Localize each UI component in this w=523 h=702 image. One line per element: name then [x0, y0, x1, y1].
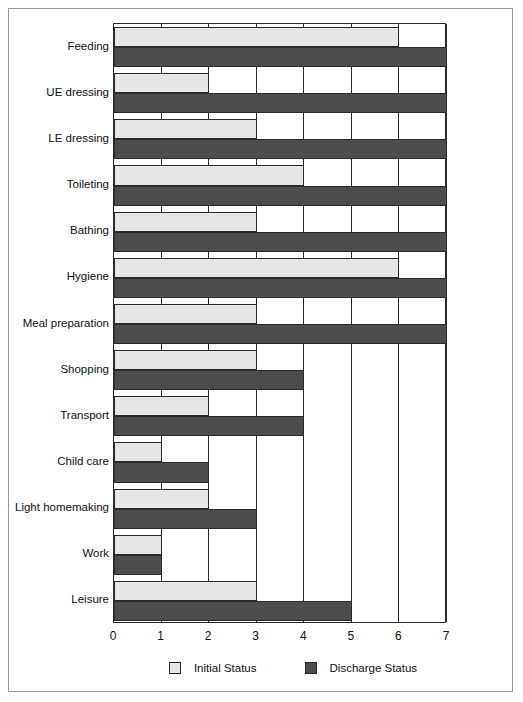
category-label: Hygiene [13, 270, 109, 283]
legend-label: Discharge Status [330, 662, 418, 674]
bar-group [114, 24, 445, 70]
legend-item-initial-status: Initial Status [169, 662, 257, 674]
bar-group [114, 578, 445, 624]
x-tick-label-6: 6 [385, 629, 411, 643]
category-label: Bathing [13, 224, 109, 237]
bar-group [114, 347, 445, 393]
bar-discharge-status [114, 47, 447, 67]
category-label: UE dressing [13, 86, 109, 99]
x-tick-label-0: 0 [100, 629, 126, 643]
legend-swatch-icon [305, 662, 317, 674]
bar-discharge-status [114, 555, 162, 575]
chart-legend: Initial StatusDischarge Status [113, 657, 473, 679]
x-tick-label-3: 3 [243, 629, 269, 643]
category-label: Toileting [13, 178, 109, 191]
x-tick-label-2: 2 [195, 629, 221, 643]
bar-discharge-status [114, 416, 304, 436]
bar-initial-status [114, 535, 162, 555]
bar-discharge-status [114, 324, 447, 344]
bar-group [114, 486, 445, 532]
bar-group [114, 439, 445, 485]
category-label: Light homemaking [13, 501, 109, 514]
bar-initial-status [114, 27, 399, 47]
bar-group [114, 255, 445, 301]
bar-initial-status [114, 396, 209, 416]
bar-initial-status [114, 581, 257, 601]
bar-initial-status [114, 212, 257, 232]
bar-initial-status [114, 350, 257, 370]
category-label: Child care [13, 455, 109, 468]
bar-group [114, 70, 445, 116]
bar-initial-status [114, 73, 209, 93]
bar-group [114, 393, 445, 439]
bar-group [114, 162, 445, 208]
plot-area [113, 23, 446, 623]
category-label: Shopping [13, 363, 109, 376]
bar-discharge-status [114, 139, 447, 159]
legend-item-discharge-status: Discharge Status [305, 662, 418, 674]
category-label: Transport [13, 409, 109, 422]
bar-discharge-status [114, 509, 257, 529]
bar-initial-status [114, 442, 162, 462]
category-label: Feeding [13, 40, 109, 53]
bar-initial-status [114, 304, 257, 324]
bar-discharge-status [114, 186, 447, 206]
category-label: LE dressing [13, 132, 109, 145]
bar-discharge-status [114, 462, 209, 482]
legend-label: Initial Status [194, 662, 257, 674]
category-axis-labels: FeedingUE dressingLE dressingToiletingBa… [9, 23, 109, 623]
bar-discharge-status [114, 278, 447, 298]
bar-initial-status [114, 258, 399, 278]
bar-discharge-status [114, 601, 352, 621]
x-tick-label-1: 1 [148, 629, 174, 643]
bar-group [114, 532, 445, 578]
figure-frame: FeedingUE dressingLE dressingToiletingBa… [8, 8, 513, 692]
bar-group [114, 301, 445, 347]
x-axis-ticks: 01234567 [113, 625, 446, 647]
category-label: Meal preparation [13, 317, 109, 330]
bar-discharge-status [114, 232, 447, 252]
x-tick-label-5: 5 [338, 629, 364, 643]
bar-group [114, 116, 445, 162]
bar-group [114, 209, 445, 255]
x-tick-label-4: 4 [290, 629, 316, 643]
bar-initial-status [114, 119, 257, 139]
x-tick-label-7: 7 [433, 629, 459, 643]
legend-swatch-icon [169, 662, 181, 674]
bar-initial-status [114, 165, 304, 185]
bar-discharge-status [114, 93, 447, 113]
bar-initial-status [114, 489, 209, 509]
bar-discharge-status [114, 370, 304, 390]
category-label: Work [13, 547, 109, 560]
category-label: Leisure [13, 593, 109, 606]
